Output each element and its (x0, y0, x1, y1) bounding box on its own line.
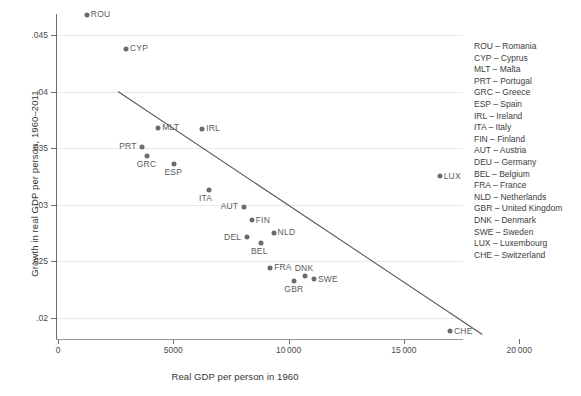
legend-entry: GRC – Greece (474, 87, 562, 99)
data-point-del (245, 235, 250, 240)
data-point-label-aut: AUT (221, 201, 239, 211)
data-point-label-irl: IRL (206, 123, 220, 133)
legend-entry: CYP – Cyprus (474, 53, 562, 65)
y-tick-label: .03 (6, 200, 48, 210)
y-tick-label: .035 (6, 143, 48, 153)
gridline (56, 35, 463, 36)
legend-entry: FRA – France (474, 180, 562, 192)
y-tick-label: .045 (6, 30, 48, 40)
data-point-cyp (124, 46, 129, 51)
gridline (56, 318, 463, 319)
data-point-label-swe: SWE (318, 274, 338, 284)
data-point-bel (258, 240, 263, 245)
legend-entry: IRL – Ireland (474, 111, 562, 123)
data-point-label-bel: BEL (251, 246, 268, 256)
gridline (56, 148, 463, 149)
gridline (56, 205, 463, 206)
legend-entry: ESP – Spain (474, 99, 562, 111)
y-tick-label: .025 (6, 256, 48, 266)
gridline (56, 261, 463, 262)
x-tick-label: 10 000 (276, 345, 301, 355)
y-axis-line (56, 14, 57, 339)
data-point-nld (271, 230, 276, 235)
data-point-ita (207, 187, 212, 192)
data-point-label-ita: ITA (199, 193, 212, 203)
legend-entry: LUX – Luxembourg (474, 238, 562, 250)
x-axis-title: Real GDP per person in 1960 (0, 371, 470, 382)
data-point-fra (268, 265, 273, 270)
gridline (56, 92, 463, 93)
data-point-esp (172, 161, 177, 166)
data-point-label-grc: GRC (137, 159, 157, 169)
data-point-label-esp: ESP (164, 167, 182, 177)
x-tick-label: 0 (56, 345, 61, 355)
country-code-legend: ROU – RomaniaCYP – CyprusMLT – MaltaPRT … (474, 41, 562, 261)
data-point-che (448, 329, 453, 334)
x-axis-line (56, 339, 463, 340)
data-point-grc (144, 153, 149, 158)
data-point-irl (200, 126, 205, 131)
legend-entry: ROU – Romania (474, 41, 562, 53)
legend-entry: DEU – Germany (474, 157, 562, 169)
legend-entry: AUT – Austria (474, 145, 562, 157)
data-point-prt (140, 144, 145, 149)
data-point-label-gbr: GBR (284, 284, 303, 294)
data-point-mlt (156, 125, 161, 130)
data-point-label-rou: ROU (91, 9, 111, 19)
data-point-label-mlt: MLT (162, 122, 179, 132)
data-point-fin (249, 218, 254, 223)
x-tick-mark (519, 339, 520, 344)
data-point-gbr (292, 279, 297, 284)
y-axis-title: Growth in real GDP per person, 1960–2011 (29, 54, 40, 314)
legend-entry: FIN – Finland (474, 134, 562, 146)
x-tick-label: 15 000 (391, 345, 416, 355)
legend-entry: PRT – Portugal (474, 76, 562, 88)
data-point-label-fin: FIN (256, 215, 270, 225)
data-point-label-che: CHE (454, 326, 473, 336)
data-point-label-dnk: DNK (295, 263, 314, 273)
data-point-label-nld: NLD (278, 227, 296, 237)
data-point-lux (437, 174, 442, 179)
data-point-aut (241, 204, 246, 209)
data-point-swe (311, 277, 316, 282)
data-point-label-del: DEL (224, 232, 241, 242)
y-tick-label: .02 (6, 313, 48, 323)
scatter-chart-figure: .02.025.03.035.04.045 0500010 00015 0002… (0, 0, 581, 396)
data-point-label-cyp: CYP (130, 43, 148, 53)
legend-entry: ITA – Italy (474, 122, 562, 134)
y-tick-label: .04 (6, 87, 48, 97)
data-point-label-fra: FRA (274, 262, 292, 272)
legend-entry: BEL – Belgium (474, 169, 562, 181)
data-point-rou (84, 12, 89, 17)
legend-entry: GBR – United Kingdom (474, 203, 562, 215)
data-point-label-lux: LUX (444, 171, 461, 181)
x-tick-label: 20 000 (507, 345, 532, 355)
legend-entry: DNK – Denmark (474, 215, 562, 227)
legend-entry: CHE – Switzerland (474, 250, 562, 262)
legend-entry: SWE – Sweden (474, 227, 562, 239)
legend-entry: NLD – Netherlands (474, 192, 562, 204)
x-tick-label: 5000 (164, 345, 183, 355)
data-point-dnk (302, 273, 307, 278)
legend-entry: MLT – Malta (474, 64, 562, 76)
data-point-label-prt: PRT (119, 141, 136, 151)
